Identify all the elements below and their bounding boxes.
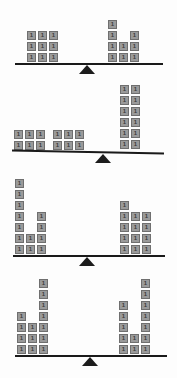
- unit-block: 1: [38, 53, 47, 62]
- unit-block: 1: [14, 130, 23, 139]
- scale-panel-4: 11111111111111 11111111111111: [0, 276, 177, 378]
- block-column: 1111: [142, 212, 151, 254]
- unit-block: 1: [142, 245, 151, 254]
- unit-block: 1: [39, 312, 48, 321]
- block-column: 11: [26, 234, 35, 254]
- block-column: 111111: [120, 85, 129, 149]
- unit-block: 1: [108, 20, 117, 29]
- block-column: 1111111: [141, 279, 150, 354]
- scale-2-fulcrum: [95, 154, 111, 163]
- unit-block: 1: [141, 323, 150, 332]
- unit-block: 1: [25, 141, 34, 150]
- unit-block: 1: [49, 53, 58, 62]
- unit-block: 1: [131, 223, 140, 232]
- unit-block: 1: [131, 140, 140, 149]
- unit-block: 1: [15, 234, 24, 243]
- unit-block: 1: [120, 107, 129, 116]
- unit-block: 1: [141, 345, 150, 354]
- block-column: 111: [27, 31, 36, 62]
- balance-scale-illustration: 111111111 111111111 111111111111 1111111…: [0, 0, 177, 378]
- unit-block: 1: [131, 107, 140, 116]
- block-column: 11: [36, 130, 45, 150]
- block-column: 1111: [131, 212, 140, 254]
- unit-block: 1: [131, 212, 140, 221]
- block-column: 111: [38, 31, 47, 62]
- unit-block: 1: [120, 234, 129, 243]
- block-column: 11: [64, 130, 73, 150]
- unit-block: 1: [142, 223, 151, 232]
- unit-block: 1: [131, 118, 140, 127]
- unit-block: 1: [39, 290, 48, 299]
- block-column: 11111: [119, 301, 128, 354]
- unit-block: 1: [15, 245, 24, 254]
- unit-block: 1: [53, 130, 62, 139]
- unit-block: 1: [39, 334, 48, 343]
- block-column: 11: [119, 42, 128, 62]
- unit-block: 1: [119, 301, 128, 310]
- unit-block: 1: [131, 85, 140, 94]
- unit-block: 1: [120, 223, 129, 232]
- unit-block: 1: [17, 312, 26, 321]
- unit-block: 1: [108, 42, 117, 51]
- unit-block: 1: [119, 312, 128, 321]
- unit-block: 1: [15, 212, 24, 221]
- block-column: 111: [28, 323, 37, 354]
- unit-block: 1: [15, 223, 24, 232]
- unit-block: 1: [120, 212, 129, 221]
- block-column: 11: [53, 130, 62, 150]
- scale-panel-3: 1111111111111 1111111111111: [0, 176, 177, 276]
- unit-block: 1: [120, 118, 129, 127]
- unit-block: 1: [75, 141, 84, 150]
- unit-block: 1: [49, 31, 58, 40]
- scale-3-fulcrum: [79, 257, 95, 266]
- unit-block: 1: [119, 323, 128, 332]
- scale-2-left-pan: 111111111111: [14, 130, 84, 150]
- unit-block: 1: [27, 42, 36, 51]
- unit-block: 1: [131, 234, 140, 243]
- unit-block: 1: [120, 201, 129, 210]
- scale-2-right-pan: 111111111111: [120, 85, 140, 149]
- unit-block: 1: [15, 190, 24, 199]
- scale-2-beam: [12, 149, 164, 154]
- unit-block: 1: [108, 53, 117, 62]
- scale-3-left-pan: 1111111111111: [15, 179, 46, 254]
- unit-block: 1: [141, 312, 150, 321]
- scale-4-right-pan: 11111111111111: [119, 279, 150, 354]
- unit-block: 1: [37, 245, 46, 254]
- unit-block: 1: [27, 31, 36, 40]
- unit-block: 1: [119, 345, 128, 354]
- unit-block: 1: [141, 301, 150, 310]
- unit-block: 1: [28, 334, 37, 343]
- block-column: 11: [130, 334, 139, 354]
- unit-block: 1: [142, 234, 151, 243]
- unit-block: 1: [141, 334, 150, 343]
- unit-block: 1: [28, 345, 37, 354]
- unit-block: 1: [15, 179, 24, 188]
- unit-block: 1: [39, 279, 48, 288]
- block-column: 11111: [120, 201, 129, 254]
- unit-block: 1: [64, 130, 73, 139]
- unit-block: 1: [53, 141, 62, 150]
- unit-block: 1: [108, 31, 117, 40]
- unit-block: 1: [119, 53, 128, 62]
- unit-block: 1: [17, 323, 26, 332]
- scale-3-right-pan: 1111111111111: [120, 201, 151, 254]
- block-column: 11: [14, 130, 23, 150]
- unit-block: 1: [39, 301, 48, 310]
- unit-block: 1: [64, 141, 73, 150]
- unit-block: 1: [130, 53, 139, 62]
- unit-block: 1: [15, 201, 24, 210]
- unit-block: 1: [26, 245, 35, 254]
- unit-block: 1: [120, 245, 129, 254]
- unit-block: 1: [36, 141, 45, 150]
- unit-block: 1: [26, 234, 35, 243]
- scale-1-left-pan: 111111111: [27, 31, 58, 62]
- unit-block: 1: [36, 130, 45, 139]
- scale-4-left-pan: 11111111111111: [17, 279, 48, 354]
- unit-block: 1: [130, 334, 139, 343]
- unit-block: 1: [120, 85, 129, 94]
- unit-block: 1: [38, 42, 47, 51]
- unit-block: 1: [131, 245, 140, 254]
- unit-block: 1: [141, 290, 150, 299]
- unit-block: 1: [39, 323, 48, 332]
